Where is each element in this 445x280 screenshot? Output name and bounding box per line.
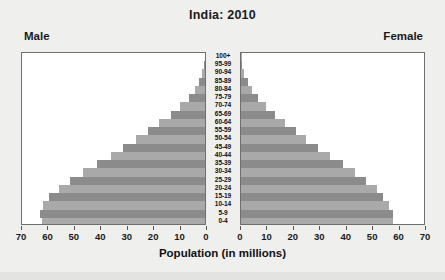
bar-female-80-84	[241, 86, 252, 94]
age-label-65-69: 65-69	[206, 110, 240, 118]
bar-male-95-99	[204, 61, 205, 69]
x-tick-label: 20	[141, 231, 165, 242]
bar-male-65-69	[171, 111, 206, 119]
bar-row	[241, 102, 424, 110]
x-tick-label: 10	[168, 231, 192, 242]
bar-female-25-29	[241, 177, 366, 185]
bar-male-0-4	[42, 218, 205, 225]
male-series-label: Male	[24, 30, 50, 42]
bar-row	[22, 127, 205, 135]
bar-row	[241, 193, 424, 201]
age-label-10-14: 10-14	[206, 200, 240, 208]
x-tick	[266, 226, 267, 230]
bar-female-35-39	[241, 160, 343, 168]
x-tick	[425, 226, 426, 230]
x-axis-title: Population (in millions)	[0, 247, 445, 259]
chart-title: India: 2010	[0, 8, 445, 22]
bar-female-45-49	[241, 144, 318, 152]
age-label-45-49: 45-49	[206, 143, 240, 151]
age-label-5-9: 5-9	[206, 209, 240, 217]
bar-row	[241, 185, 424, 193]
x-tick	[21, 226, 22, 230]
bar-row	[241, 78, 424, 86]
bar-male-80-84	[195, 86, 205, 94]
bar-row	[241, 86, 424, 94]
x-tick-label: 70	[413, 231, 437, 242]
age-label-100+: 100+	[206, 52, 240, 60]
age-label-40-44: 40-44	[206, 151, 240, 159]
bar-female-85-89	[241, 78, 248, 86]
age-label-20-24: 20-24	[206, 184, 240, 192]
bar-row	[241, 152, 424, 160]
bar-female-5-9	[241, 210, 393, 218]
bar-female-95-99	[241, 61, 242, 69]
age-label-90-94: 90-94	[206, 68, 240, 76]
bar-row	[22, 78, 205, 86]
x-tick-label: 30	[115, 231, 139, 242]
x-tick-label: 0	[194, 231, 218, 242]
bar-female-55-59	[241, 127, 296, 135]
bar-male-15-19	[49, 193, 205, 201]
bar-male-90-94	[202, 69, 205, 77]
age-label-0-4: 0-4	[206, 217, 240, 225]
bar-female-0-4	[241, 218, 393, 225]
bar-male-50-54	[136, 135, 205, 143]
x-tick-label: 50	[62, 231, 86, 242]
age-label-35-39: 35-39	[206, 159, 240, 167]
bar-row	[241, 177, 424, 185]
bar-female-70-74	[241, 102, 266, 110]
bar-male-35-39	[97, 160, 205, 168]
bar-female-40-44	[241, 152, 330, 160]
age-label-60-64: 60-64	[206, 118, 240, 126]
bar-row	[22, 53, 205, 61]
age-label-75-79: 75-79	[206, 93, 240, 101]
bar-female-30-34	[241, 168, 355, 176]
bar-row	[22, 86, 205, 94]
x-tick-label: 30	[307, 231, 331, 242]
age-label-95-99: 95-99	[206, 60, 240, 68]
bar-row	[241, 127, 424, 135]
bar-male-30-34	[83, 168, 205, 176]
bar-female-20-24	[241, 185, 377, 193]
x-tick-label: 60	[35, 231, 59, 242]
bar-row	[241, 168, 424, 176]
population-pyramid-figure: India: 2010 Male Female 100+95-9990-9485…	[0, 0, 445, 272]
x-tick	[399, 226, 400, 230]
bar-row	[22, 144, 205, 152]
x-tick	[293, 226, 294, 230]
bar-row	[241, 218, 424, 225]
bar-row	[241, 61, 424, 69]
bar-female-15-19	[241, 193, 383, 201]
bar-male-55-59	[148, 127, 206, 135]
x-tick	[47, 226, 48, 230]
age-label-15-19: 15-19	[206, 192, 240, 200]
bar-female-50-54	[241, 135, 306, 143]
female-series-label: Female	[383, 30, 423, 42]
bar-female-75-79	[241, 94, 258, 102]
x-tick-label: 0	[228, 231, 252, 242]
bar-female-90-94	[241, 69, 244, 77]
x-tick	[372, 226, 373, 230]
bar-row	[22, 160, 205, 168]
x-tick	[240, 226, 241, 230]
bar-male-10-14	[43, 201, 205, 209]
bar-row	[241, 144, 424, 152]
bar-male-20-24	[59, 185, 205, 193]
age-label-70-74: 70-74	[206, 101, 240, 109]
bar-female-65-69	[241, 111, 275, 119]
bar-row	[22, 119, 205, 127]
age-label-25-29: 25-29	[206, 176, 240, 184]
age-label-85-89: 85-89	[206, 77, 240, 85]
bar-row	[241, 160, 424, 168]
bar-row	[22, 111, 205, 119]
x-tick	[74, 226, 75, 230]
x-tick	[346, 226, 347, 230]
female-bars-panel	[240, 52, 425, 225]
bar-row	[241, 201, 424, 209]
x-tick	[153, 226, 154, 230]
bar-row	[22, 193, 205, 201]
bar-row	[22, 69, 205, 77]
bar-male-5-9	[40, 210, 205, 218]
x-tick-label: 70	[9, 231, 33, 242]
x-tick	[180, 226, 181, 230]
